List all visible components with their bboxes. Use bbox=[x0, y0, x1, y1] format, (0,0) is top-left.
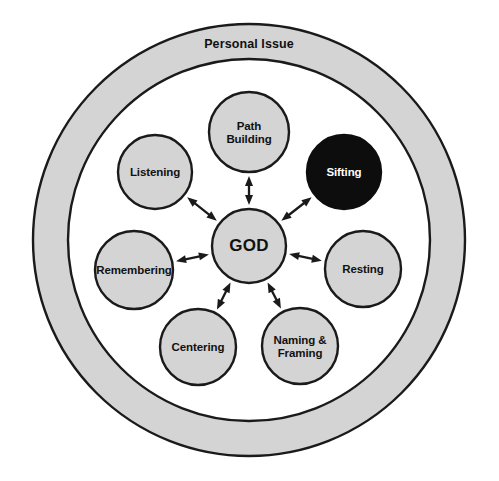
arrow-head bbox=[176, 255, 187, 263]
connector-path-building bbox=[245, 176, 253, 205]
node-label-centering: Centering bbox=[172, 341, 225, 353]
node-label-resting: Resting bbox=[342, 263, 384, 275]
node-path-building[interactable]: PathBuilding bbox=[209, 92, 289, 172]
node-naming-framing[interactable]: Naming &Framing bbox=[262, 308, 338, 384]
arrow-head bbox=[198, 253, 209, 261]
node-label-naming-framing: Naming &Framing bbox=[274, 334, 327, 359]
diagram-root: Personal Issue PathBuildingSiftingRestin… bbox=[0, 0, 499, 481]
arrow-head bbox=[273, 298, 281, 309]
node-label-listening: Listening bbox=[130, 166, 180, 178]
connector-naming-framing bbox=[268, 283, 281, 309]
arrow-head bbox=[217, 299, 225, 310]
connector-resting bbox=[289, 252, 322, 262]
center-node[interactable]: GOD bbox=[212, 209, 286, 283]
center-node-label: GOD bbox=[229, 236, 269, 255]
connector-line bbox=[287, 201, 306, 216]
arrow-head bbox=[222, 283, 230, 294]
arrow-head bbox=[289, 252, 300, 260]
arrow-head bbox=[311, 255, 322, 263]
connector-centering bbox=[217, 283, 231, 310]
node-resting[interactable]: Resting bbox=[325, 231, 401, 307]
arrow-head bbox=[245, 176, 253, 186]
node-sifting[interactable]: Sifting bbox=[307, 135, 381, 209]
node-remembering[interactable]: Remembering bbox=[95, 231, 173, 309]
outer-ring-title: Personal Issue bbox=[204, 37, 294, 51]
node-label-remembering: Remembering bbox=[96, 264, 172, 276]
node-listening[interactable]: Listening bbox=[118, 135, 192, 209]
connector-line bbox=[193, 202, 212, 217]
arrow-head bbox=[245, 195, 253, 205]
connector-sifting bbox=[281, 197, 311, 221]
connector-listening bbox=[187, 197, 217, 220]
connector-remembering bbox=[176, 253, 209, 264]
arrow-head bbox=[268, 283, 276, 294]
node-centering[interactable]: Centering bbox=[160, 309, 236, 385]
personal-issue-diagram: Personal Issue PathBuildingSiftingRestin… bbox=[0, 0, 499, 481]
node-label-sifting: Sifting bbox=[326, 166, 361, 178]
